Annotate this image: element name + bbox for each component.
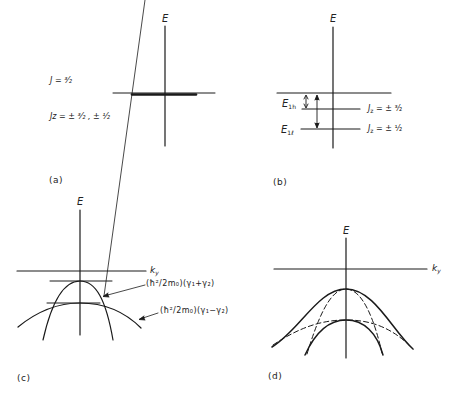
panel-b-jz-light-value: = ± ¹⁄₂ [376, 124, 402, 133]
panel-d-lower-solid-band [305, 320, 383, 355]
panel-c-graphics [17, 0, 158, 340]
panel-a-caption: (a) [49, 176, 63, 185]
panel-b-energy-label: E [330, 14, 336, 24]
panel-d-energy-label: E [343, 226, 349, 236]
panel-b-e1h-label: E1h [282, 99, 296, 110]
panel-d-caption: (d) [268, 372, 282, 381]
panel-d-dashed-narrow-band [307, 289, 382, 354]
diagram-canvas [0, 0, 455, 395]
panel-c-pointer-1b [104, 285, 145, 296]
panel-d-k-subscript: y [437, 267, 441, 274]
panel-b-caption: (b) [273, 178, 287, 187]
panel-c-k-subscript: y [155, 269, 159, 276]
panel-c-pointer-1 [104, 0, 145, 296]
panel-b-jz-heavy-label: Jz = ± ³⁄₂ [368, 105, 402, 114]
panel-c-heavy-curvature-label: (ħ²/2m₀)(γ₁+γ₂) [146, 280, 215, 288]
panel-c-caption: (c) [17, 374, 30, 383]
panel-c-light-curvature-label: (ħ²/2m₀)(γ₁−γ₂) [160, 307, 229, 315]
panel-d-upper-solid-band [272, 289, 413, 349]
panel-b-jz-heavy-sub: z [370, 107, 373, 114]
panel-b-e1l-label: E1ℓ [281, 125, 294, 136]
panel-a-jz-label: Jz = ± ³⁄₂ , ± ¹⁄₂ [50, 113, 110, 121]
panel-d-ky-label: ky [432, 264, 441, 274]
panel-a-j-label: J = ³⁄₂ [50, 77, 72, 85]
panel-c-ky-label: ky [150, 266, 159, 276]
panel-b-e1h-subscript: 1h [288, 103, 296, 110]
panel-b-jz-heavy-value: = ± ³⁄₂ [376, 104, 402, 113]
panel-c-energy-label: E [77, 197, 83, 207]
panel-a-graphics [113, 26, 215, 146]
panel-a-energy-label: E [162, 14, 168, 24]
panel-d-graphics [272, 238, 427, 358]
panel-b-jz-light-label: Jz = ± ¹⁄₂ [368, 125, 402, 134]
panel-c-narrow-parabola [43, 281, 113, 340]
panel-b-jz-light-sub: z [370, 127, 373, 134]
panel-b-e1l-subscript: 1ℓ [287, 129, 293, 136]
